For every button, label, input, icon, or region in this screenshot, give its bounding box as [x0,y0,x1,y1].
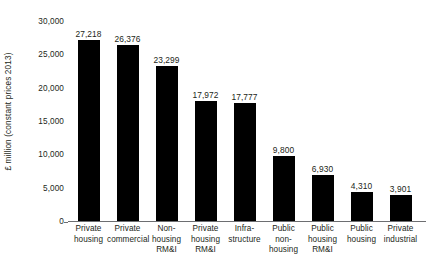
bar-group: 17,777 [225,0,264,221]
x-axis-label-line: Private [380,224,421,235]
x-axis-label: Non-housingRM&I [146,224,187,256]
x-axis-label-line: housing [341,235,382,246]
x-axis-label-line: housing [185,235,226,246]
x-axis-label: Publicnon-housing [263,224,304,256]
x-axis-label-line: housing [68,235,109,246]
bar-chart: £ million (constant prices 2013) 05,0001… [0,0,440,276]
x-axis-label-line: Non- [146,224,187,235]
y-tick-label: 20,000 [38,84,64,93]
bar-group: 3,901 [381,0,420,221]
y-tick-label: 5,000 [43,184,64,193]
y-tick-mark [64,222,68,223]
bar [390,195,412,221]
x-axis-label: Privateindustrial [380,224,421,245]
bar [195,101,217,221]
bar-group: 9,800 [264,0,303,221]
x-axis-label-line: Public [263,224,304,235]
bar-value-label: 23,299 [153,55,179,65]
bar-value-label: 17,777 [231,92,257,102]
x-axis-label: Infra-structure [224,224,265,245]
bar [312,175,334,221]
x-axis-label-line: non- [263,235,304,246]
y-tick-label: 30,000 [38,17,64,26]
x-axis-label-line: Private [185,224,226,235]
x-axis-label-line: commercial [107,235,148,246]
bar-value-label: 9,800 [273,145,294,155]
bar-value-label: 6,930 [312,164,333,174]
x-axis-label: PublichousingRM&I [302,224,343,256]
x-axis-label-line: housing [302,235,343,246]
x-axis-line [68,221,426,222]
y-tick-label: 10,000 [38,150,64,159]
x-axis-label: Privatecommercial [107,224,148,245]
bar-group: 26,376 [108,0,147,221]
bar [351,192,373,221]
bar-group: 17,972 [186,0,225,221]
bar [78,40,100,221]
x-axis-label-line: Private [107,224,148,235]
x-axis-label: Publichousing [341,224,382,245]
y-axis-title-text: £ million (constant prices 2013) [4,52,13,170]
x-axis-label-line: Infra- [224,224,265,235]
bar-group: 23,299 [147,0,186,221]
x-axis-label-line: structure [224,235,265,246]
bar-value-label: 3,901 [390,184,411,194]
x-axis-label-line: industrial [380,235,421,246]
x-axis-label: PrivatehousingRM&I [185,224,226,256]
x-axis-label-line: Private [68,224,109,235]
y-axis-ticks: 05,00010,00015,00020,00025,00030,000 [16,0,68,276]
x-axis-label-line: Public [302,224,343,235]
x-axis-label: Privatehousing [68,224,109,245]
x-axis-label-line: housing [263,245,304,256]
bar [117,45,139,221]
bar-value-label: 4,310 [351,181,372,191]
bar-value-label: 17,972 [192,90,218,100]
plot-area: 27,21826,37623,29917,97217,7779,8006,930… [68,0,426,222]
bar [156,66,178,221]
x-axis-label-line: RM&I [302,245,343,256]
x-axis-labels: PrivatehousingPrivatecommercialNon-housi… [68,224,426,276]
y-tick-label: 25,000 [38,50,64,59]
bar-group: 27,218 [69,0,108,221]
bar [234,103,256,222]
bar-value-label: 27,218 [75,29,101,39]
bar [273,156,295,221]
x-axis-label-line: Public [341,224,382,235]
bar-group: 6,930 [303,0,342,221]
y-axis-title: £ million (constant prices 2013) [0,0,16,222]
bar-value-label: 26,376 [114,34,140,44]
bar-group: 4,310 [342,0,381,221]
x-axis-label-line: housing [146,235,187,246]
x-axis-label-line: RM&I [185,245,226,256]
x-axis-label-line: RM&I [146,245,187,256]
y-tick-label: 15,000 [38,117,64,126]
